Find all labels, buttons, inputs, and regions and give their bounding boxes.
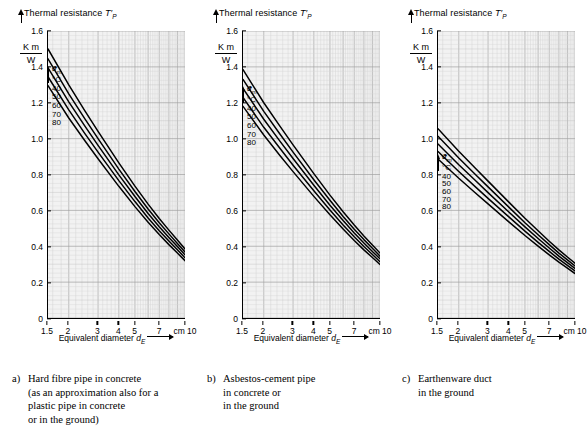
y-tick-label: 1.4	[21, 62, 43, 72]
y-tick-mark	[437, 174, 441, 175]
legend-b: ϑm °C 4050607080	[247, 85, 257, 148]
y-tick-label: 1.2	[411, 98, 433, 108]
chart-panel-b: Thermal resistance T′P K m W 00.20.40.60…	[195, 0, 390, 360]
chart-panel-a: Thermal resistance T′P K m W 00.20.40.60…	[0, 0, 195, 360]
y-tick-label: 0.4	[216, 242, 238, 252]
y-axis-title: Thermal resistance T′P	[24, 8, 117, 20]
caption-line: Hard fibre pipe in concrete	[28, 372, 192, 386]
y-tick-mark	[47, 138, 51, 139]
y-tick-mark	[242, 138, 246, 139]
y-tick-label: 1.4	[411, 62, 433, 72]
x-tick-mark	[97, 321, 98, 325]
y-tick-mark	[47, 102, 51, 103]
y-tick-label: 1.0	[216, 134, 238, 144]
y-tick-label: 0.6	[21, 206, 43, 216]
y-tick-labels-a: 00.20.40.60.81.01.21.41.6	[19, 31, 43, 319]
x-tick-mark	[158, 321, 159, 325]
y-tick-label: 1.0	[411, 134, 433, 144]
y-axis-arrow-stem	[21, 14, 23, 23]
y-tick-label: 0.6	[216, 206, 238, 216]
caption-b: b) Asbestos-cement pipein concrete orin …	[207, 372, 387, 413]
legend-symbol-a: ϑm	[52, 64, 62, 73]
caption-line: in concrete or	[223, 386, 387, 400]
x-tick-mark	[457, 321, 458, 325]
x-tick-mark	[508, 321, 509, 325]
y-axis-arrow-stem	[411, 14, 413, 23]
y-tick-label: 1.6	[21, 26, 43, 36]
y-axis-title: Thermal resistance T′P	[219, 8, 312, 20]
y-tick-mark	[242, 246, 246, 247]
x-tick-mark	[574, 321, 575, 325]
x-tick-mark	[487, 321, 488, 325]
x-tick-mark	[329, 321, 330, 325]
y-tick-mark	[437, 138, 441, 139]
x-tick-mark	[67, 321, 68, 325]
y-tick-mark	[242, 210, 246, 211]
x-tick-mark	[313, 321, 314, 325]
x-tick-mark	[262, 321, 263, 325]
y-tick-mark	[242, 66, 246, 67]
y-tick-mark	[242, 282, 246, 283]
y-axis-title: Thermal resistance T′P	[414, 8, 507, 20]
y-tick-label: 0.4	[21, 242, 43, 252]
y-tick-label: 0.2	[21, 278, 43, 288]
x-tick-mark	[292, 321, 293, 325]
caption-a: a) Hard fibre pipe in concrete(as an app…	[12, 372, 192, 426]
caption-line: plastic pipe in concrete	[28, 399, 192, 413]
y-tick-label: 1.6	[411, 26, 433, 36]
x-tick-mark	[118, 321, 119, 325]
y-tick-mark	[437, 102, 441, 103]
y-tick-label: 0.6	[411, 206, 433, 216]
caption-text-c: Earthenware ductin the ground	[418, 372, 582, 399]
caption-line: in the ground	[418, 386, 582, 400]
y-axis-arrow-stem	[216, 14, 218, 23]
caption-marker-a: a)	[12, 372, 20, 386]
x-tick-mark	[241, 321, 242, 325]
caption-line: in the ground	[223, 399, 387, 413]
y-tick-label: 1.6	[216, 26, 238, 36]
y-tick-mark	[242, 174, 246, 175]
caption-text-a: Hard fibre pipe in concrete(as an approx…	[28, 372, 192, 426]
y-tick-mark	[242, 318, 246, 319]
y-tick-labels-b: 00.20.40.60.81.01.21.41.6	[214, 31, 238, 319]
y-tick-mark	[47, 210, 51, 211]
x-tick-mark	[548, 321, 549, 325]
y-tick-label: 1.0	[21, 134, 43, 144]
x-tick-mark	[134, 321, 135, 325]
y-tick-mark	[47, 318, 51, 319]
x-tick-mark	[46, 321, 47, 325]
caption-c: c) Earthenware ductin the ground	[402, 372, 582, 399]
y-tick-mark	[437, 246, 441, 247]
caption-text-b: Asbestos-cement pipein concrete orin the…	[223, 372, 387, 413]
y-tick-mark	[47, 282, 51, 283]
y-tick-mark	[437, 318, 441, 319]
grid-and-curves-a	[48, 31, 185, 318]
grid-and-curves-c	[438, 31, 575, 318]
y-tick-label: 0.2	[216, 278, 238, 288]
caption-marker-b: b)	[207, 372, 216, 386]
caption-line: or in the ground)	[28, 413, 192, 427]
y-tick-mark	[437, 66, 441, 67]
y-tick-label: 1.4	[216, 62, 238, 72]
y-tick-mark	[437, 30, 441, 31]
x-tick-mark	[524, 321, 525, 325]
y-tick-label: 0.8	[411, 170, 433, 180]
legend-a: ϑm °C 4050607080	[52, 65, 62, 128]
y-tick-label: 1.2	[21, 98, 43, 108]
y-tick-label: 0.8	[216, 170, 238, 180]
legend-level-80: 80	[247, 139, 257, 148]
plot-area-b: ϑm °C 4050607080	[242, 31, 380, 319]
y-tick-mark	[437, 210, 441, 211]
y-tick-mark	[242, 30, 246, 31]
caption-marker-c: c)	[402, 372, 410, 386]
plot-area-c: ϑm °C 4050607080	[437, 31, 575, 319]
chart-panel-c: Thermal resistance T′P K m W 00.20.40.60…	[390, 0, 585, 360]
caption-line: Earthenware duct	[418, 372, 582, 386]
y-tick-label: 0.4	[411, 242, 433, 252]
legend-c: ϑm °C 4050607080	[442, 153, 452, 211]
y-tick-label: 0.2	[411, 278, 433, 288]
plot-area-a: ϑm °C 4050607080	[47, 31, 185, 319]
y-tick-mark	[437, 282, 441, 283]
x-axis-title-c: Equivalent diameter dE	[437, 333, 575, 345]
x-tick-mark	[184, 321, 185, 325]
